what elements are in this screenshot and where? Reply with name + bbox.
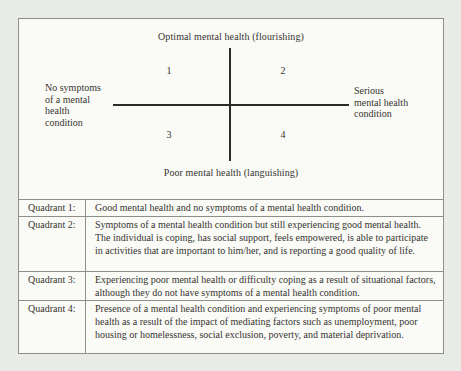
bottom-axis-label: Poor mental health (languishing) bbox=[19, 167, 443, 178]
quadrant-row-label: Quadrant 4: bbox=[19, 301, 86, 354]
scanned-page: Optimal mental health (flourishing) 1 2 … bbox=[0, 0, 461, 371]
table-row-quadrant-1: Quadrant 1: Good mental health and no sy… bbox=[19, 200, 443, 216]
quadrant-row-description: Presence of a mental health condition an… bbox=[86, 301, 443, 354]
table-row-quadrant-4: Quadrant 4: Presence of a mental health … bbox=[19, 300, 443, 354]
quadrant-row-label: Quadrant 3: bbox=[19, 272, 86, 300]
top-axis-label: Optimal mental health (flourishing) bbox=[19, 31, 443, 42]
quadrant-row-label: Quadrant 1: bbox=[19, 200, 86, 216]
quadrant-table: Quadrant 1: Good mental health and no sy… bbox=[19, 199, 443, 353]
horizontal-axis-line bbox=[113, 104, 349, 106]
figure-container: Optimal mental health (flourishing) 1 2 … bbox=[18, 18, 444, 354]
quadrant-row-description: Symptoms of a mental health condition bu… bbox=[86, 217, 443, 271]
quadrant-3-number: 3 bbox=[157, 129, 181, 140]
table-row-quadrant-2: Quadrant 2: Symptoms of a mental health … bbox=[19, 216, 443, 271]
left-axis-label: No symptoms of a mental health condition bbox=[45, 82, 115, 128]
quadrant-4-number: 4 bbox=[271, 129, 295, 140]
table-row-quadrant-3: Quadrant 3: Experiencing poor mental hea… bbox=[19, 271, 443, 300]
quadrant-row-description: Experiencing poor mental health or diffi… bbox=[86, 272, 443, 300]
quadrant-row-description: Good mental health and no symptoms of a … bbox=[86, 200, 443, 216]
quadrant-2-number: 2 bbox=[271, 65, 295, 76]
quadrant-row-label: Quadrant 2: bbox=[19, 217, 86, 271]
quadrant-diagram: Optimal mental health (flourishing) 1 2 … bbox=[19, 19, 443, 199]
right-axis-label: Serious mental health condition bbox=[354, 85, 439, 120]
quadrant-1-number: 1 bbox=[157, 65, 181, 76]
